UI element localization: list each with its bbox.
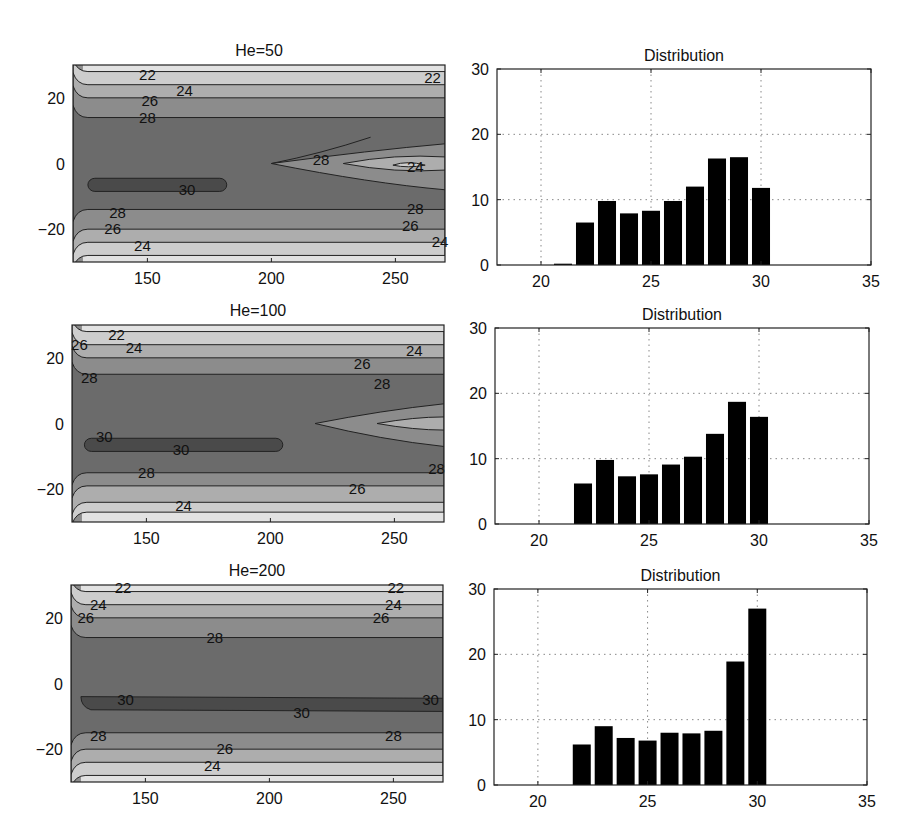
contour-label: 30 xyxy=(173,441,190,458)
contour-panel-he100: 22242628303028242628242826150200250−2002… xyxy=(37,302,445,547)
x-tick-label: 250 xyxy=(380,790,407,807)
histogram-bar xyxy=(748,609,766,785)
histogram-bar xyxy=(728,402,746,524)
x-tick-label: 25 xyxy=(639,793,657,810)
y-tick-label: −20 xyxy=(36,741,63,758)
contour-label: 30 xyxy=(179,181,196,198)
y-tick-label: 10 xyxy=(471,192,489,209)
contour-label: 26 xyxy=(104,220,121,237)
histogram-bar xyxy=(752,188,770,265)
histogram-bar xyxy=(664,201,682,265)
y-tick-label: 10 xyxy=(469,451,487,468)
histogram-bar xyxy=(620,213,638,265)
histogram-bar xyxy=(574,483,592,524)
x-tick-label: 35 xyxy=(858,793,876,810)
y-tick-label: 20 xyxy=(468,646,486,663)
histogram-bar xyxy=(595,726,613,785)
x-tick-label: 150 xyxy=(133,530,160,547)
contour-title: He=50 xyxy=(235,42,283,59)
contour-label: 28 xyxy=(407,200,424,217)
contour-label: 30 xyxy=(96,428,113,445)
contour-label: 28 xyxy=(206,629,223,646)
histogram-panel-3: 202530350102030Distribution xyxy=(468,567,876,810)
contour-label: 28 xyxy=(428,460,445,477)
contour-panel-he50: 2224262828302422282624282624150200250−20… xyxy=(38,42,449,287)
histogram-bar xyxy=(682,733,700,785)
x-tick-label: 250 xyxy=(381,530,408,547)
contour-label: 22 xyxy=(108,326,125,343)
x-tick-label: 35 xyxy=(862,273,880,290)
y-tick-label: 20 xyxy=(46,350,64,367)
x-tick-label: 25 xyxy=(640,532,658,549)
histogram-bar xyxy=(617,738,635,785)
histogram-title: Distribution xyxy=(640,567,720,584)
contour-label: 24 xyxy=(407,158,424,175)
contour-label: 30 xyxy=(422,691,439,708)
contour-label: 24 xyxy=(134,237,151,254)
contour-label: 26 xyxy=(142,92,159,109)
y-tick-label: 10 xyxy=(468,712,486,729)
contour-panel-he200: 2224262830303028282624262422150200250−20… xyxy=(36,562,443,807)
histogram-bar xyxy=(639,741,657,785)
y-tick-label: 30 xyxy=(468,581,486,598)
histogram-bar xyxy=(576,223,594,265)
contour-label: 30 xyxy=(117,691,134,708)
contour-label: 22 xyxy=(388,579,405,596)
y-tick-label: 0 xyxy=(480,257,489,274)
histogram-bar xyxy=(618,476,636,524)
contour-label: 22 xyxy=(115,579,132,596)
x-tick-label: 200 xyxy=(258,270,285,287)
histogram-bar xyxy=(750,417,768,524)
histogram-bar xyxy=(661,733,679,785)
histogram-title: Distribution xyxy=(642,306,722,323)
x-tick-label: 20 xyxy=(530,532,548,549)
x-tick-label: 30 xyxy=(752,273,770,290)
contour-label: 26 xyxy=(78,609,95,626)
contour-label: 26 xyxy=(216,740,233,757)
contour-label: 28 xyxy=(90,727,107,744)
histogram-title: Distribution xyxy=(644,47,724,64)
contour-label: 30 xyxy=(293,704,310,721)
y-tick-label: 20 xyxy=(47,90,65,107)
contour-label: 28 xyxy=(385,727,402,744)
contour-label: 26 xyxy=(71,336,88,353)
contour-label: 28 xyxy=(313,151,330,168)
x-tick-label: 20 xyxy=(532,273,550,290)
contour-label: 24 xyxy=(406,342,423,359)
histogram-bar xyxy=(642,211,660,265)
y-tick-label: 20 xyxy=(45,610,63,627)
histogram-panel-1: 202530350102030Distribution xyxy=(471,47,880,290)
contour-title: He=100 xyxy=(230,302,287,319)
x-tick-label: 25 xyxy=(642,273,660,290)
x-tick-label: 150 xyxy=(132,790,159,807)
x-tick-label: 150 xyxy=(134,270,161,287)
histogram-bar xyxy=(730,157,748,265)
contour-label: 22 xyxy=(139,66,156,83)
x-tick-label: 20 xyxy=(529,793,547,810)
y-tick-label: 0 xyxy=(478,516,487,533)
contour-label: 24 xyxy=(204,757,221,774)
y-tick-label: 0 xyxy=(55,416,64,433)
histogram-bar xyxy=(708,159,726,265)
y-tick-label: 0 xyxy=(56,156,65,173)
histogram-bar xyxy=(640,474,658,524)
contour-label: 28 xyxy=(139,109,156,126)
x-tick-label: 250 xyxy=(382,270,409,287)
histogram-bar xyxy=(598,201,616,265)
contour-label: 24 xyxy=(432,233,449,250)
contour-label: 26 xyxy=(402,217,419,234)
contour-label: 28 xyxy=(109,204,126,221)
contour-label: 24 xyxy=(176,82,193,99)
contour-label: 28 xyxy=(138,464,155,481)
histogram-bar xyxy=(573,744,591,785)
histogram-bar xyxy=(704,731,722,785)
contour-label: 28 xyxy=(81,369,98,386)
histogram-bar xyxy=(706,434,724,524)
histogram-bar xyxy=(684,457,702,524)
y-tick-label: 30 xyxy=(469,320,487,337)
y-tick-label: 20 xyxy=(471,126,489,143)
contour-label: 26 xyxy=(354,355,371,372)
y-tick-label: 0 xyxy=(54,676,63,693)
histogram-bar xyxy=(726,662,744,785)
contour-label: 24 xyxy=(385,596,402,613)
